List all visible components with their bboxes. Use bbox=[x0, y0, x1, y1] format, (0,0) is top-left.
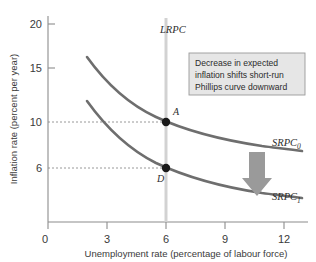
annotation-line-2: inflation shifts short-run bbox=[195, 70, 284, 80]
annotation-line-1: Decrease in expected bbox=[195, 58, 278, 68]
x-tick-label-0: 0 bbox=[42, 233, 48, 245]
point-d-marker bbox=[162, 164, 170, 172]
x-axis-title: Unemployment rate (percentage of labour … bbox=[85, 248, 288, 259]
phillips-curve-chart: 20 15 10 6 0 3 6 9 12 Inflation rate (pe… bbox=[0, 0, 316, 262]
point-a-marker bbox=[162, 118, 170, 126]
srpc1-curve bbox=[87, 101, 302, 198]
x-tick-label-6: 6 bbox=[163, 233, 169, 245]
point-d-label: D bbox=[156, 173, 165, 184]
y-tick-label-6: 6 bbox=[36, 162, 42, 174]
x-tick-label-9: 9 bbox=[222, 233, 228, 245]
srpc1-label: SRPC1 bbox=[272, 191, 301, 205]
y-tick-label-10: 10 bbox=[30, 116, 42, 128]
x-axis-ticks bbox=[48, 222, 284, 229]
axis-lines bbox=[48, 16, 308, 222]
point-a-label: A bbox=[172, 106, 180, 117]
y-tick-label-20: 20 bbox=[30, 18, 42, 30]
x-tick-label-12: 12 bbox=[278, 233, 290, 245]
x-tick-label-3: 3 bbox=[104, 233, 110, 245]
y-axis-ticks bbox=[48, 24, 55, 68]
y-axis-title: Inflation rate (percent per year) bbox=[8, 54, 19, 184]
lrpc-label: LRPC bbox=[159, 24, 187, 35]
y-tick-label-15: 15 bbox=[30, 62, 42, 74]
annotation-line-3: Phillips curve downward bbox=[195, 82, 287, 92]
